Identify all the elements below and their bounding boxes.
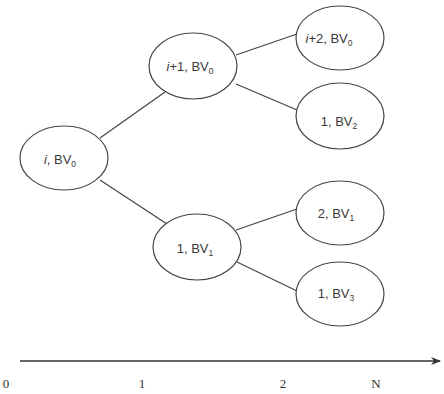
axis-tick-1: 1 xyxy=(139,376,146,392)
axis-tick-0: 0 xyxy=(3,376,10,392)
edge-root-to-i1 xyxy=(100,92,165,138)
node-label-2bv1: 2, BV1 xyxy=(318,206,355,221)
axis-tick-N: N xyxy=(371,376,380,392)
diagram-graphics xyxy=(0,0,444,394)
edge-root-to-1bv1 xyxy=(100,180,167,224)
edge-1bv1-to-1bv3 xyxy=(237,262,297,291)
edge-i1-to-i2 xyxy=(236,34,297,55)
edge-i1-to-1bv2 xyxy=(236,84,297,110)
axis-tick-2: 2 xyxy=(280,376,287,392)
node-label-1bv3: 1, BV3 xyxy=(318,286,355,301)
node-label-1bv2: 1, BV2 xyxy=(321,114,358,129)
node-label-root: i, BV0 xyxy=(44,152,76,167)
node-label-i2: i+2, BV0 xyxy=(305,31,352,46)
node-label-1bv1: 1, BV1 xyxy=(177,241,214,256)
tree-diagram: i, BV0 i+1, BV0 1, BV1 i+2, BV0 1, BV2 2… xyxy=(0,0,444,394)
node-label-i1: i+1, BV0 xyxy=(166,59,213,74)
edge-1bv1-to-2bv1 xyxy=(236,209,297,230)
